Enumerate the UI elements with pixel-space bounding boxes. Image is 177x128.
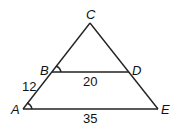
side-ce [90,23,158,109]
label-c: C [86,7,96,22]
label-b: B [40,63,49,78]
label-a: A [10,102,20,117]
label-d: D [132,63,141,78]
triangle-diagram: C B D A E 12 20 35 [0,0,177,128]
label-e: E [161,102,170,117]
measure-ae: 35 [83,111,97,126]
measure-ab: 12 [22,79,36,94]
angle-mark-a [27,103,32,109]
measure-bd: 20 [83,74,97,89]
angle-mark-b [56,66,61,72]
